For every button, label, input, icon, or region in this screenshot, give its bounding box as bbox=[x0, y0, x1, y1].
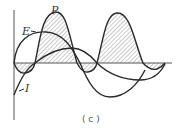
voltage-label-pointer bbox=[31, 31, 36, 32]
voltage-label: E bbox=[21, 25, 30, 38]
figure-caption: ( c ) bbox=[82, 114, 100, 124]
current-label-pointer bbox=[19, 89, 24, 91]
power-waveform-diagram: P E I ( c ) bbox=[0, 0, 179, 136]
current-label: I bbox=[24, 82, 30, 95]
power-label: P bbox=[50, 4, 59, 17]
power-hatched-areas bbox=[14, 12, 165, 73]
